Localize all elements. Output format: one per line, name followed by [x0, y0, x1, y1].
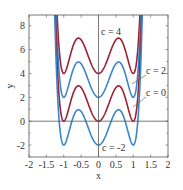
y-tick-label: 4: [20, 68, 25, 79]
curve-label: c = 4: [101, 26, 121, 37]
y-tick-label: 0: [20, 116, 25, 127]
x-tick-label: -1: [60, 159, 68, 170]
x-tick-label: 1.5: [144, 159, 157, 170]
x-tick-label: 0: [96, 159, 101, 170]
x-tick-label: -0.5: [73, 159, 89, 170]
y-tick-label: -2: [17, 140, 25, 151]
y-axis-label: y: [4, 84, 15, 89]
x-tick-label: -2: [25, 159, 33, 170]
y-tick-label: 8: [20, 20, 25, 31]
zero-lines: [29, 15, 168, 157]
curve-label: c = -2: [102, 142, 125, 153]
y-tick-label: 6: [20, 44, 25, 55]
x-tick-label: 1: [131, 159, 136, 170]
y-tick-label: 2: [20, 92, 25, 103]
curve-labels: c = 4c = 2c = 0c = -2: [101, 26, 166, 153]
x-axis-label: x: [96, 170, 101, 181]
chart: -2-1.5-1-0.500.511.52-202468 x y c = 4c …: [0, 0, 183, 190]
curve-label: c = 0: [146, 87, 166, 98]
x-tick-label: 2: [166, 159, 171, 170]
x-tick-label: 0.5: [110, 159, 123, 170]
x-tick-label: -1.5: [38, 159, 54, 170]
curve-label: c = 2: [146, 65, 166, 76]
